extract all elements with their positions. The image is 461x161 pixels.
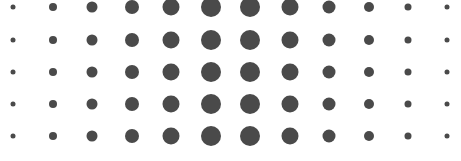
- dot-marker: [240, 30, 260, 50]
- dot-marker: [364, 35, 374, 45]
- dot-marker: [405, 101, 412, 108]
- dot-marker: [201, 30, 221, 50]
- dot-marker: [163, 128, 180, 145]
- dot-marker: [445, 134, 450, 139]
- dot-marker: [163, 0, 180, 16]
- dot-marker: [11, 102, 16, 107]
- dot-marker: [125, 0, 139, 14]
- dot-marker: [445, 5, 450, 10]
- dot-marker: [87, 35, 98, 46]
- dot-marker: [281, 96, 298, 113]
- dot-marker: [125, 65, 139, 79]
- dot-marker: [240, 62, 260, 82]
- dot-marker: [240, 0, 260, 17]
- dot-marker: [201, 0, 221, 17]
- dot-marker: [49, 3, 57, 11]
- dot-marker: [163, 64, 180, 81]
- dot-marker: [125, 97, 139, 111]
- dot-marker: [323, 1, 336, 14]
- dot-marker: [445, 102, 450, 107]
- dot-marker: [240, 126, 260, 146]
- dot-marker: [11, 134, 16, 139]
- dot-marker: [49, 36, 57, 44]
- dot-marker: [201, 94, 221, 114]
- dot-marker: [125, 33, 139, 47]
- dot-marker: [364, 67, 374, 77]
- dot-marker: [163, 96, 180, 113]
- dot-marker: [87, 2, 98, 13]
- dot-marker: [240, 94, 260, 114]
- dot-marker: [364, 2, 374, 12]
- dot-marker: [201, 126, 221, 146]
- dot-marker: [281, 64, 298, 81]
- dot-marker: [323, 130, 336, 143]
- dot-marker: [445, 70, 450, 75]
- dot-marker: [87, 99, 98, 110]
- dot-marker: [323, 66, 336, 79]
- dot-marker: [163, 32, 180, 49]
- dot-marker: [323, 34, 336, 47]
- dot-marker: [11, 5, 16, 10]
- dot-marker: [125, 129, 139, 143]
- dot-marker: [281, 128, 298, 145]
- dot-marker: [281, 0, 298, 16]
- dot-marker: [405, 69, 412, 76]
- dot-marker: [49, 68, 57, 76]
- dot-marker: [11, 38, 16, 43]
- dot-marker: [445, 38, 450, 43]
- dot-marker: [49, 132, 57, 140]
- dot-marker: [87, 67, 98, 78]
- dot-marker: [49, 100, 57, 108]
- dot-marker: [364, 99, 374, 109]
- dot-marker: [87, 131, 98, 142]
- dot-marker: [11, 70, 16, 75]
- dot-marker: [201, 62, 221, 82]
- dot-marker: [405, 133, 412, 140]
- dot-marker: [281, 32, 298, 49]
- dot-marker: [405, 4, 412, 11]
- dot-marker: [364, 131, 374, 141]
- dot-marker: [405, 37, 412, 44]
- dot-marker: [323, 98, 336, 111]
- dot-matrix-chart: [0, 0, 461, 161]
